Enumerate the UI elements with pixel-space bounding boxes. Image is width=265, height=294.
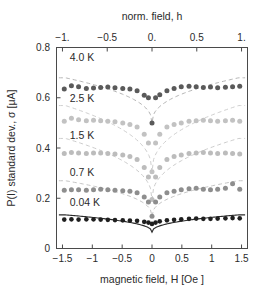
data-point	[187, 119, 192, 124]
data-point	[120, 218, 125, 223]
data-point	[84, 151, 89, 156]
data-point	[208, 151, 213, 156]
data-point	[153, 220, 158, 225]
left-tick-label: 0	[44, 243, 50, 254]
data-point	[112, 152, 117, 157]
data-point	[120, 120, 125, 125]
data-point	[135, 124, 140, 129]
data-point	[194, 151, 199, 156]
data-point	[84, 188, 89, 193]
data-point	[230, 151, 235, 156]
data-point	[105, 119, 110, 124]
data-point	[146, 95, 151, 100]
data-point	[120, 188, 125, 193]
data-point	[223, 85, 228, 90]
bottom-tick-label: 0.5	[175, 253, 189, 264]
data-point	[98, 151, 103, 156]
top-axis-title: norm. field, h	[122, 10, 183, 22]
data-point	[157, 165, 162, 170]
data-point	[237, 152, 242, 157]
data-point	[164, 190, 169, 195]
data-point	[215, 151, 220, 156]
data-point	[208, 84, 213, 89]
data-point	[106, 218, 111, 223]
left-tick-label: 0.6	[36, 92, 50, 103]
data-point	[91, 187, 96, 192]
data-point	[172, 154, 177, 159]
data-point	[187, 84, 192, 89]
data-point	[201, 118, 206, 123]
data-point	[165, 218, 170, 223]
data-point	[142, 93, 147, 98]
data-point	[215, 216, 220, 221]
data-point	[98, 118, 103, 123]
data-point	[223, 151, 228, 156]
data-point	[84, 118, 89, 123]
bottom-axis-tick-labels: −1.5−1−0.500.511.5	[53, 253, 249, 264]
data-point	[135, 219, 140, 224]
left-tick-label: 0.4	[36, 143, 50, 154]
chart-svg: norm. field, h −1.−0.50.0.51. −1.5−1−0.5…	[0, 0, 265, 294]
data-point	[146, 140, 151, 145]
data-point	[237, 216, 242, 221]
data-point	[120, 153, 125, 158]
series-label-40k: 4.0 K	[70, 51, 95, 63]
data-point	[223, 216, 228, 221]
data-point	[164, 124, 169, 129]
left-axis-title: P(I) standard dev., σ [μA]	[5, 90, 17, 207]
data-point	[157, 92, 162, 97]
figure-container: norm. field, h −1.−0.50.0.51. −1.5−1−0.5…	[0, 0, 265, 294]
data-point	[153, 174, 158, 179]
data-point	[98, 217, 103, 222]
data-point	[105, 84, 110, 89]
data-point	[179, 217, 184, 222]
data-point	[164, 88, 169, 93]
data-point	[76, 117, 81, 122]
data-point	[215, 119, 220, 124]
data-point	[201, 150, 206, 155]
data-point	[98, 85, 103, 90]
data-point	[164, 157, 169, 162]
data-point	[69, 83, 74, 88]
data-point	[150, 169, 155, 174]
top-tick-label: 1.	[237, 32, 245, 43]
bottom-tick-label: 1	[209, 253, 215, 264]
data-point	[91, 217, 96, 222]
data-point	[153, 140, 158, 145]
data-point	[194, 216, 199, 221]
data-point	[230, 118, 235, 123]
data-point	[69, 116, 74, 121]
data-point	[91, 118, 96, 123]
data-point	[201, 187, 206, 192]
data-point	[128, 218, 133, 223]
data-point	[208, 118, 213, 123]
data-point	[62, 119, 67, 124]
data-point	[223, 118, 228, 123]
left-tick-label: 0.2	[36, 193, 50, 204]
data-point	[201, 85, 206, 90]
data-point	[135, 88, 140, 93]
data-point	[113, 218, 118, 223]
data-point	[91, 151, 96, 156]
data-point	[127, 86, 132, 91]
data-point	[208, 217, 213, 222]
data-point	[62, 188, 67, 193]
data-point	[84, 217, 89, 222]
data-point	[157, 132, 162, 137]
data-point	[142, 165, 147, 170]
data-point	[135, 157, 140, 162]
data-point	[179, 84, 184, 89]
data-point	[142, 194, 147, 199]
data-point	[146, 200, 151, 205]
top-axis-tick-labels: −1.−0.50.0.51.	[55, 32, 245, 43]
data-point	[179, 153, 184, 158]
data-point	[215, 85, 220, 90]
data-point	[215, 187, 220, 192]
data-point	[208, 187, 213, 192]
data-point	[194, 186, 199, 191]
data-point	[76, 84, 81, 89]
series-label-25k: 2.5 K	[70, 92, 95, 104]
data-point	[194, 118, 199, 123]
data-point	[84, 86, 89, 91]
data-point	[112, 85, 117, 90]
